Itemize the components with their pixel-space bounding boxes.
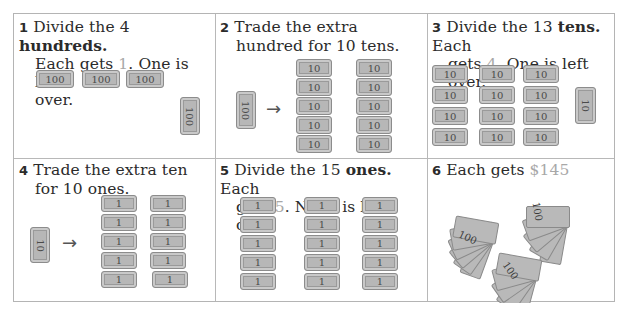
total-amount: $145 xyxy=(530,161,570,179)
leftover-hundred-bill: 100 xyxy=(180,97,200,135)
ten-bill: 10 xyxy=(523,128,559,146)
worksheet-grid: 1Divide the 4 hundreds. Each gets 1. One… xyxy=(13,13,615,302)
panel-2: 2Trade the extra hundred for 10 tens. 10… xyxy=(216,14,427,158)
one-bill: 1 xyxy=(362,254,398,271)
one-bill: 1 xyxy=(362,197,398,214)
hundred-bill: 100 xyxy=(126,70,164,88)
one-bill: 1 xyxy=(304,216,340,233)
ten-bill: 10 xyxy=(523,107,559,125)
ten-bill: 10 xyxy=(523,65,559,83)
ten-bill: 10 xyxy=(296,78,332,96)
ten-bill: 10 xyxy=(30,227,50,263)
one-bill: 1 xyxy=(150,214,186,231)
ten-bill: 10 xyxy=(356,135,392,153)
ten-bill: 10 xyxy=(432,86,468,104)
ten-bill: 10 xyxy=(432,128,468,146)
step-number: 6 xyxy=(432,163,441,178)
ten-bill: 10 xyxy=(523,86,559,104)
hundred-bill: 100 xyxy=(82,70,120,88)
ten-bill: 10 xyxy=(479,86,515,104)
one-bill: 1 xyxy=(362,235,398,252)
ten-bill: 10 xyxy=(432,65,468,83)
one-bill: 1 xyxy=(362,216,398,233)
hundred-bill: 100 xyxy=(36,70,74,88)
ten-bill: 10 xyxy=(296,116,332,134)
leftover-ten-bill: 10 xyxy=(575,87,596,124)
one-bill: 1 xyxy=(101,214,137,231)
one-bill: 1 xyxy=(362,273,398,290)
step-number: 2 xyxy=(220,20,229,35)
panel-2-caption: 2Trade the extra hundred for 10 tens. xyxy=(220,18,425,55)
money-fan: 100 xyxy=(483,237,553,297)
ten-bill: 10 xyxy=(432,107,468,125)
ten-bill: 10 xyxy=(296,59,332,77)
ten-bill: 10 xyxy=(296,97,332,115)
one-bill: 1 xyxy=(240,235,276,252)
ten-bill: 10 xyxy=(479,65,515,83)
one-bill: 1 xyxy=(240,216,276,233)
one-bill: 1 xyxy=(101,271,137,288)
step-number: 1 xyxy=(19,20,28,35)
ten-bill: 10 xyxy=(479,128,515,146)
one-bill: 1 xyxy=(240,197,276,214)
panel-6: 6Each gets $145 100 100 100 xyxy=(428,159,616,303)
step-number: 5 xyxy=(220,163,229,178)
one-bill: 1 xyxy=(240,254,276,271)
panel-1-caption: 1Divide the 4 hundreds. Each gets 1. One… xyxy=(19,18,215,109)
panel-1: 1Divide the 4 hundreds. Each gets 1. One… xyxy=(14,14,215,158)
ten-bill: 10 xyxy=(356,116,392,134)
hundred-bill: 100 xyxy=(236,91,256,129)
panel-3: 3Divide the 13 tens. Each gets 4. One is… xyxy=(428,14,616,158)
one-bill: 1 xyxy=(101,195,137,212)
ten-bill: 10 xyxy=(356,78,392,96)
one-bill: 1 xyxy=(304,197,340,214)
one-bill: 1 xyxy=(101,233,137,250)
arrow-right-icon: → xyxy=(62,232,77,253)
step-number: 3 xyxy=(432,20,441,35)
one-bill: 1 xyxy=(152,271,188,288)
panel-4: 4Trade the extra ten for 10 ones. 10 → 1… xyxy=(14,159,215,303)
ten-bill: 10 xyxy=(296,135,332,153)
one-bill: 1 xyxy=(304,273,340,290)
one-bill: 1 xyxy=(240,273,276,290)
panel-4-caption: 4Trade the extra ten for 10 ones. xyxy=(19,161,215,198)
one-bill: 1 xyxy=(150,233,186,250)
one-bill: 1 xyxy=(150,252,186,269)
one-bill: 1 xyxy=(304,254,340,271)
ten-bill: 10 xyxy=(479,107,515,125)
arrow-right-icon: → xyxy=(266,98,281,119)
one-bill: 1 xyxy=(150,195,186,212)
panel-6-caption: 6Each gets $145 xyxy=(432,161,616,180)
one-bill: 1 xyxy=(304,235,340,252)
panel-5: 5Divide the 15 ones. Each gets 5. None i… xyxy=(216,159,427,303)
one-bill: 1 xyxy=(101,252,137,269)
ten-bill: 10 xyxy=(356,97,392,115)
ten-bill: 10 xyxy=(356,59,392,77)
step-number: 4 xyxy=(19,163,28,178)
